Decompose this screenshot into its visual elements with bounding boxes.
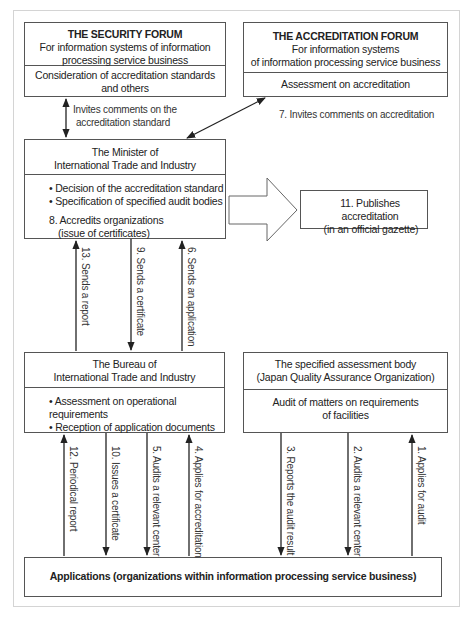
bureau-bullet-2: • Reception of application documents bbox=[49, 421, 224, 434]
bureau-box: The Bureau of International Trade and In… bbox=[24, 352, 225, 433]
accreditation-forum-subtitle-1: For information systems bbox=[244, 43, 447, 56]
minister-step8-2: (issue of certificates) bbox=[49, 227, 225, 240]
publish-box: 11. Publishes accreditation (in an offic… bbox=[300, 190, 428, 229]
step7-label: 7. Invites comments on accreditation bbox=[279, 109, 434, 121]
minister-box: The Minister of International Trade and … bbox=[24, 139, 226, 239]
assessment-role-2: of facilities bbox=[244, 409, 447, 422]
assessment-title-2: (Japan Quality Assurance Organization) bbox=[244, 371, 447, 384]
step4-label: 4. Applies for accreditation bbox=[192, 446, 204, 558]
assessment-role-1: Audit of matters on requirements bbox=[244, 396, 447, 409]
minister-step8-1: 8. Accredits organizations bbox=[49, 214, 225, 227]
minister-title-2: International Trade and Industry bbox=[25, 159, 225, 172]
assessment-title-1: The specified assessment body bbox=[244, 358, 447, 371]
minister-title-1: The Minister of bbox=[25, 146, 225, 159]
accreditation-forum-subtitle-2: of information processing service busine… bbox=[244, 56, 447, 69]
assessment-body-box: The specified assessment body (Japan Qua… bbox=[243, 352, 448, 433]
security-forum-title: THE SECURITY FORUM bbox=[25, 28, 225, 41]
step12-label: 12. Periodical report bbox=[67, 446, 79, 531]
security-forum-subtitle-1: For information systems of information bbox=[25, 41, 225, 54]
bureau-title-2: International Trade and Industry bbox=[25, 371, 224, 384]
invites-standard-label-2: accreditation standard bbox=[76, 117, 170, 129]
security-forum-role-2: and others bbox=[25, 82, 225, 95]
applications-label: Applications (organizations within infor… bbox=[25, 570, 441, 583]
step2-label: 2. Audits a relevant center bbox=[351, 446, 363, 556]
invites-standard-label-1: Invites comments on the bbox=[73, 104, 177, 116]
step10-label: 10. Issues a certificate bbox=[109, 446, 121, 541]
bureau-bullet-1: • Assessment on operational requirements bbox=[49, 395, 224, 421]
step1-label: 1. Applies for audit bbox=[415, 446, 427, 524]
bureau-title-1: The Bureau of bbox=[25, 358, 224, 371]
step5-label: 5. Audits a relevant center bbox=[150, 446, 162, 556]
step3-label: 3. Reports the audit result bbox=[284, 446, 296, 555]
accreditation-forum-box: THE ACCREDITATION FORUM For information … bbox=[243, 22, 448, 97]
step6-label: 6. Sends an application bbox=[185, 247, 197, 346]
publish-line-1: 11. Publishes accreditation bbox=[301, 197, 427, 223]
accreditation-forum-title: THE ACCREDITATION FORUM bbox=[244, 30, 447, 43]
step9-label: 9. Sends a certificate bbox=[134, 247, 146, 336]
security-forum-box: THE SECURITY FORUM For information syste… bbox=[24, 22, 226, 97]
security-forum-role-1: Consideration of accreditation standards bbox=[25, 69, 225, 82]
applications-box: Applications (organizations within infor… bbox=[24, 557, 442, 597]
accreditation-forum-role: Assessment on accreditation bbox=[244, 78, 447, 91]
minister-bullet-1: • Decision of the accreditation standard bbox=[49, 182, 225, 195]
minister-bullet-2: • Specification of specified audit bodie… bbox=[49, 195, 225, 208]
step13-label: 13. Sends a report bbox=[79, 247, 91, 326]
publish-line-2: (in an official gazette) bbox=[301, 223, 427, 236]
